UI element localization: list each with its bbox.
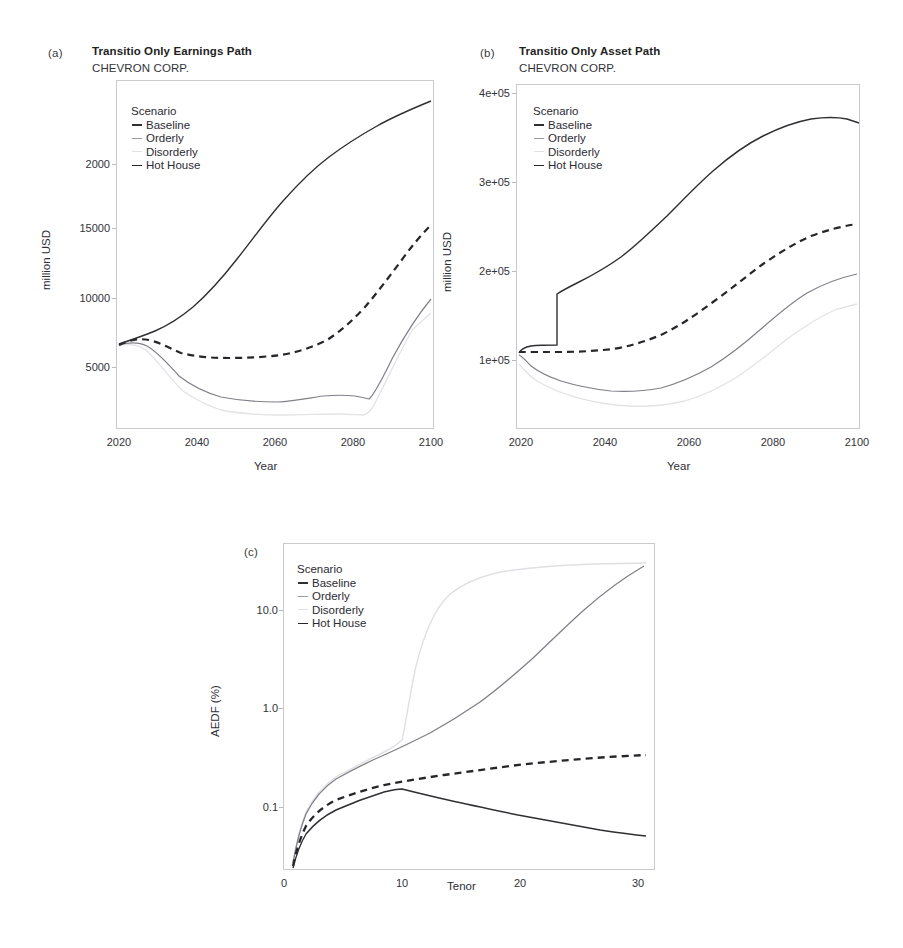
panel-c-ytick-2: 0.1: [224, 801, 278, 813]
legend-key-disorderly-icon: [297, 604, 309, 615]
panel-c-xtick-0: 0: [272, 877, 296, 889]
legend-key-hothouse-icon: [297, 618, 309, 629]
panel-c-xtick-1: 10: [390, 877, 414, 889]
legend-key-hothouse-icon: [533, 160, 545, 171]
panel-a-xtick-2: 2060: [255, 436, 295, 448]
legend-label-hothouse: Hot House: [548, 159, 602, 171]
panel-a-xtick-4: 2100: [411, 436, 451, 448]
legend-label-baseline: Baseline: [312, 577, 356, 589]
legend-key-orderly-icon: [297, 591, 309, 602]
panel-a-ytickmark-0: [112, 164, 116, 165]
legend-item-disorderly[interactable]: Disorderly: [533, 145, 602, 159]
panel-b-xaxis-title: Year: [667, 460, 690, 472]
legend-label-orderly: Orderly: [548, 132, 586, 144]
panel-b-yaxis-title: million USD: [441, 232, 453, 292]
panel-b-xtick-2: 2060: [669, 436, 709, 448]
legend-label-baseline: Baseline: [548, 119, 592, 131]
panel-a-ytickmark-1: [112, 228, 116, 229]
legend-item-orderly[interactable]: Orderly: [533, 132, 602, 146]
legend-title: Scenario: [533, 105, 602, 117]
curve-baseline-c: [293, 789, 646, 868]
panel-b-ytick-2: 2e+05: [455, 265, 510, 277]
panel-a-xtick-0: 2020: [99, 436, 139, 448]
panel-b-subtitle: CHEVRON CORP.: [519, 62, 616, 74]
legend-key-disorderly-icon: [533, 146, 545, 157]
panel-c-ytickmark-0: [279, 610, 283, 611]
panel-b-xtick-0: 2020: [501, 436, 541, 448]
panel-c-xtick-3: 30: [626, 877, 650, 889]
panel-c-yaxis-title: AEDF (%): [209, 685, 221, 737]
panel-c-ytickmark-2: [279, 807, 283, 808]
panel-b-letter: (b): [480, 47, 495, 59]
panel-a-ytickmark-3: [112, 367, 116, 368]
panel-a-ytick-0: 2000: [58, 158, 110, 170]
panel-a-xtick-3: 2080: [333, 436, 373, 448]
panel-b-xtick-1: 2040: [585, 436, 625, 448]
panel-c-ytick-1: 1.0: [224, 702, 278, 714]
panel-b-ytickmark-1: [512, 182, 516, 183]
legend-label-disorderly: Disorderly: [548, 146, 600, 158]
panel-a-subtitle: CHEVRON CORP.: [92, 62, 189, 74]
legend-key-orderly-icon: [533, 133, 545, 144]
panel-b-xtick-3: 2080: [753, 436, 793, 448]
panel-b-title: Transitio Only Asset Path: [519, 45, 660, 57]
legend-title: Scenario: [297, 563, 366, 575]
legend-title: Scenario: [131, 105, 200, 117]
legend-item-baseline[interactable]: Baseline: [533, 118, 602, 132]
panel-a-legend: Scenario Baseline Orderly Disorderly Hot…: [131, 105, 200, 172]
curve-orderly-b: [519, 274, 857, 391]
legend-item-orderly[interactable]: Orderly: [297, 590, 366, 604]
legend-item-hothouse[interactable]: Hot House: [297, 617, 366, 631]
panel-b-legend: Scenario Baseline Orderly Disorderly Hot…: [533, 105, 602, 172]
panel-a-yaxis-title: million USD: [40, 230, 52, 290]
panel-c-xtick-2: 20: [508, 877, 532, 889]
curve-orderly-a: [119, 299, 431, 402]
panel-b-ytickmark-3: [512, 360, 516, 361]
panel-a-letter: (a): [48, 47, 63, 59]
panel-a-ytickmark-2: [112, 298, 116, 299]
panel-a-ytick-1: 15000: [58, 222, 110, 234]
legend-item-hothouse[interactable]: Hot House: [131, 159, 200, 173]
panel-b-ytick-0: 4e+05: [455, 87, 510, 99]
legend-key-baseline-icon: [297, 577, 309, 588]
panel-a-title: Transitio Only Earnings Path: [92, 45, 252, 57]
panel-c-ytick-0: 10.0: [224, 604, 278, 616]
curve-disorderly-a: [119, 313, 431, 415]
legend-key-hothouse-icon: [131, 160, 143, 171]
legend-item-disorderly[interactable]: Disorderly: [131, 145, 200, 159]
legend-key-disorderly-icon: [131, 146, 143, 157]
legend-item-baseline[interactable]: Baseline: [131, 118, 200, 132]
curve-hothouse-a: [119, 225, 431, 358]
panel-c-ytickmark-1: [279, 708, 283, 709]
legend-item-baseline[interactable]: Baseline: [297, 576, 366, 590]
legend-item-hothouse[interactable]: Hot House: [533, 159, 602, 173]
panel-a-ytick-3: 5000: [58, 361, 110, 373]
panel-b-xtick-4: 2100: [837, 436, 877, 448]
panel-c-xaxis-title: Tenor: [447, 880, 476, 892]
legend-item-disorderly[interactable]: Disorderly: [297, 603, 366, 617]
legend-key-baseline-icon: [533, 119, 545, 130]
legend-item-orderly[interactable]: Orderly: [131, 132, 200, 146]
legend-label-hothouse: Hot House: [312, 617, 366, 629]
curve-hothouse-b: [519, 224, 857, 352]
legend-key-orderly-icon: [131, 133, 143, 144]
legend-label-baseline: Baseline: [146, 119, 190, 131]
legend-label-hothouse: Hot House: [146, 159, 200, 171]
panel-c-legend: Scenario Baseline Orderly Disorderly Hot…: [297, 563, 366, 630]
panel-b-ytickmark-2: [512, 271, 516, 272]
panel-c-letter: (c): [244, 546, 258, 558]
panel-a-xaxis-title: Year: [254, 460, 277, 472]
curve-disorderly-b: [519, 304, 857, 406]
panel-b-ytick-3: 1e+05: [455, 354, 510, 366]
legend-label-disorderly: Disorderly: [146, 146, 198, 158]
panel-b-ytickmark-0: [512, 93, 516, 94]
legend-label-orderly: Orderly: [146, 132, 184, 144]
panel-a-ytick-2: 10000: [58, 292, 110, 304]
legend-label-orderly: Orderly: [312, 590, 350, 602]
panel-b-ytick-1: 3e+05: [455, 176, 510, 188]
panel-a-xtick-1: 2040: [177, 436, 217, 448]
legend-label-disorderly: Disorderly: [312, 604, 364, 616]
legend-key-baseline-icon: [131, 119, 143, 130]
